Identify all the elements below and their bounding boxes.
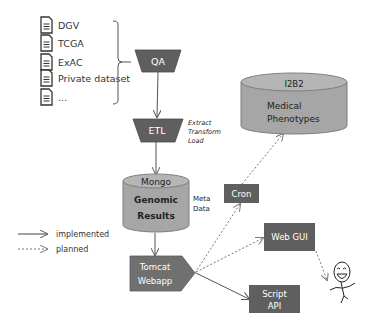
source-item-more[interactable]: ... [41,89,67,105]
document-icon [41,89,52,105]
cron-label: Cron [232,189,252,199]
etl-note: Extract Transform Load [188,119,221,145]
user-smiley-icon [330,262,355,303]
edge-qa-etl [157,72,158,117]
edge-tomcat-script [196,273,249,299]
grouping-brace [113,21,131,104]
document-icon [41,54,52,70]
svg-text:planned: planned [56,245,88,254]
architecture-diagram: DGV TCGA ExAC [0,0,377,329]
legend-implemented: implemented [18,230,109,239]
mongo-title: Mongo [141,177,172,187]
document-icon [41,70,52,86]
script-api-node[interactable]: Script API [249,285,300,313]
webgui-label: Web GUI [271,232,308,242]
svg-text:Load: Load [188,137,205,145]
mongo-line-2: Results [137,211,175,221]
edge-cron-i2b2 [242,134,283,184]
svg-text:implemented: implemented [56,230,109,239]
svg-text:Transform: Transform [188,128,221,136]
source-label: ExAC [58,57,83,68]
cron-node[interactable]: Cron [224,184,259,203]
qa-label: QA [151,56,165,67]
svg-text:Data: Data [193,205,210,213]
etl-label: ETL [148,125,166,136]
script-line-2: API [268,301,281,311]
source-item-private-dataset[interactable]: Private dataset [41,70,130,86]
etl-node[interactable]: ETL [133,119,183,142]
edge-webgui-user [316,251,327,280]
tomcat-line-1: Tomcat [139,262,171,272]
tomcat-line-2: Webapp [138,276,173,286]
source-label: DGV [58,20,80,31]
source-label: Private dataset [58,73,130,84]
document-icon [41,17,52,33]
edge-tomcat-cron [195,204,240,273]
tomcat-node[interactable]: Tomcat Webapp [130,256,195,291]
source-item-dgv[interactable]: DGV [41,17,80,33]
document-icon [41,35,52,51]
i2b2-line-2: Phenotypes [267,114,320,124]
script-line-1: Script [262,289,287,299]
source-label: TCGA [57,38,84,49]
webgui-node[interactable]: Web GUI [264,223,315,251]
qa-node[interactable]: QA [135,50,181,72]
source-item-tcga[interactable]: TCGA [41,35,84,51]
mongo-line-1: Genomic [134,195,178,205]
svg-text:Meta: Meta [193,195,210,203]
mongo-database[interactable]: Mongo Genomic Results [123,174,189,232]
source-list: DGV TCGA ExAC [41,17,130,105]
source-item-exac[interactable]: ExAC [41,54,83,70]
i2b2-line-1: Medical [267,101,301,111]
source-label: ... [58,92,67,103]
mongo-note: Meta Data [193,195,210,213]
legend: implemented planned [18,230,109,254]
i2b2-title: I2B2 [284,79,303,89]
legend-planned: planned [18,245,88,254]
svg-text:Extract: Extract [188,119,212,127]
edge-tomcat-webgui [196,238,263,272]
i2b2-database[interactable]: I2B2 Medical Phenotypes [241,73,347,134]
